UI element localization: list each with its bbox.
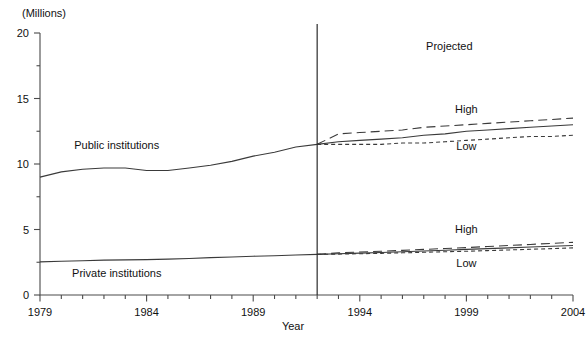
y-tick-10: 10 xyxy=(0,159,29,170)
x-axis-title: Year xyxy=(282,321,304,332)
x-tick-1994: 1994 xyxy=(348,307,372,318)
y-tick-0: 0 xyxy=(0,290,29,301)
public-high-label: High xyxy=(455,104,478,115)
private-series-label: Private institutions xyxy=(72,268,161,279)
y-tick-5: 5 xyxy=(0,225,29,236)
private-low-label: Low xyxy=(456,258,476,269)
x-tick-1984: 1984 xyxy=(134,307,158,318)
y-tick-15: 15 xyxy=(0,94,29,105)
series-private-institutions-high-projection xyxy=(317,242,573,254)
series-private-institutions-actual xyxy=(40,254,317,261)
public-low-label: Low xyxy=(456,141,476,152)
projected-label: Projected xyxy=(426,41,472,52)
series-public-institutions-low-projection xyxy=(317,135,573,144)
public-series-label: Public institutions xyxy=(74,140,159,151)
chart-axes xyxy=(34,33,573,302)
x-tick-1979: 1979 xyxy=(28,307,52,318)
y-tick-20: 20 xyxy=(0,28,29,39)
chart-canvas xyxy=(0,0,586,344)
enrollment-projection-chart: (Millions) 05101520 19791984198919941999… xyxy=(0,0,586,344)
x-tick-2004: 2004 xyxy=(561,307,585,318)
x-tick-1999: 1999 xyxy=(454,307,478,318)
x-tick-1989: 1989 xyxy=(241,307,265,318)
private-high-label: High xyxy=(455,224,478,235)
series-private-institutions-middle-projection xyxy=(317,245,573,254)
